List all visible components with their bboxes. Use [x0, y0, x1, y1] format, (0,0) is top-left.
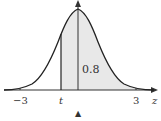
marker-triangle-icon: ▲: [75, 109, 82, 118]
y-axis-arrow-icon: [75, 0, 81, 7]
tick-label-t: t: [59, 95, 64, 106]
normal-curve-diagram: 0.8 −3 t 3 z ▲: [0, 0, 161, 121]
axis-label-z: z: [151, 95, 158, 106]
shaded-region: [61, 9, 155, 90]
shaded-area-label: 0.8: [82, 63, 100, 76]
tick-label-3: 3: [133, 95, 139, 106]
tick-label-neg3: −3: [13, 95, 28, 106]
